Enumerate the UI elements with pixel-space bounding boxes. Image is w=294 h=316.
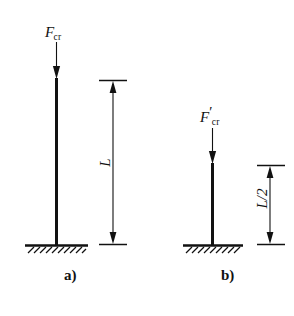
fig-a-dimension-arrow-down xyxy=(110,232,117,244)
fig-a-force-symbol: F xyxy=(45,24,54,40)
fig-a-dimension-label: L xyxy=(98,158,113,166)
fig-b-ground-hatching xyxy=(186,247,240,253)
fig-a-dimension-arrow-up xyxy=(110,81,117,93)
fig-a-ground-hatching xyxy=(28,247,86,253)
fig-a-caption: a) xyxy=(64,268,77,283)
fig-b-force-subscript: cr xyxy=(212,117,220,127)
fig-b-force-label: F′cr xyxy=(200,105,220,128)
fig-a-force-label: Fcr xyxy=(45,20,61,43)
fig-b-load-arrow-head xyxy=(209,151,216,164)
fig-b-force-prime: ′ xyxy=(208,104,211,120)
fig-a-load-arrow-head xyxy=(53,66,60,79)
fig-a-force-subscript: cr xyxy=(54,32,62,42)
fig-b-dimension-arrow-up xyxy=(267,166,274,178)
fig-b-dimension-label: L/2 xyxy=(255,188,270,208)
buckling-column-diagram xyxy=(0,0,294,316)
fig-b-caption: b) xyxy=(221,268,234,283)
fig-b-dimension-arrow-down xyxy=(267,232,274,244)
